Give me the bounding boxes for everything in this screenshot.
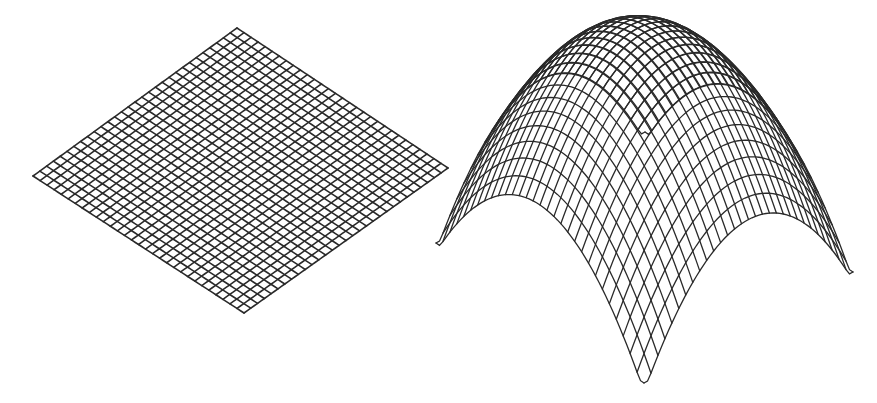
grid-line — [519, 17, 728, 196]
figure-canvas — [0, 0, 877, 403]
grid-line — [506, 54, 714, 251]
grid-line — [492, 73, 700, 270]
paraboloid-dome-wireframe — [436, 16, 853, 383]
figure — [0, 0, 877, 403]
grid-line — [637, 193, 846, 372]
grid-line — [568, 16, 776, 213]
grid-line — [436, 195, 644, 383]
flat-plane-wireframe — [33, 28, 448, 313]
